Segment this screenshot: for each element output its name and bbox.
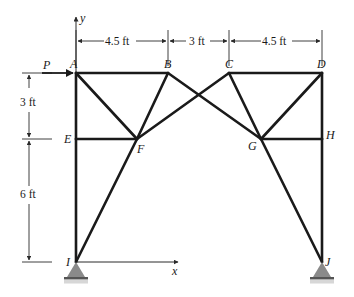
- joint-a-label: A: [69, 57, 78, 71]
- joint-g-label: G: [248, 139, 257, 153]
- horizontal-dimensions: 4.5 ft 3 ft 4.5 ft: [76, 30, 322, 66]
- joint-b-label: B: [164, 57, 172, 71]
- truss-diagram: y x 4.5 ft 3 ft 4.5 ft 3 ft 6 ft: [0, 0, 354, 297]
- support-j: [310, 262, 334, 284]
- x-axis: x: [76, 262, 178, 278]
- member-fi: [76, 139, 137, 262]
- joint-f-label: F: [136, 142, 145, 156]
- truss-members: [76, 73, 322, 262]
- dim-ae-label: 3 ft: [20, 96, 36, 108]
- joint-labels: A B C D E F G H I J: [63, 57, 336, 269]
- member-dg: [261, 73, 322, 139]
- y-axis: y: [76, 11, 86, 73]
- joint-d-label: D: [316, 57, 326, 71]
- member-gj: [261, 139, 322, 262]
- joint-j-label: J: [325, 255, 331, 269]
- x-axis-label: x: [171, 264, 178, 278]
- joint-h-label: H: [325, 128, 336, 142]
- dim-ab-label: 4.5 ft: [105, 35, 130, 47]
- dim-ei-label: 6 ft: [20, 188, 36, 200]
- joint-i-label: I: [65, 255, 71, 269]
- load-label: P: [42, 58, 51, 72]
- joint-c-label: C: [225, 57, 234, 71]
- load-p: P: [42, 58, 73, 73]
- dim-cd-label: 4.5 ft: [262, 35, 287, 47]
- y-axis-label: y: [79, 11, 86, 25]
- joint-e-label: E: [63, 132, 72, 146]
- vertical-dimensions: 3 ft 6 ft: [20, 73, 52, 262]
- member-af: [76, 73, 137, 139]
- dim-bc-label: 3 ft: [189, 35, 205, 47]
